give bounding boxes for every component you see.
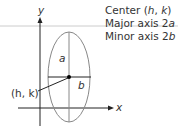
semi-minor-label: b <box>78 80 85 91</box>
semi-major-label: a <box>59 53 65 64</box>
legend-center-suffix: ) <box>167 4 171 16</box>
legend-center-prefix: Center ( <box>105 4 148 16</box>
center-point-label: (h, k) <box>11 88 39 99</box>
y-axis-arrow-icon <box>38 17 43 23</box>
legend-major-prefix: Major axis 2 <box>105 17 169 29</box>
center-point <box>67 75 71 79</box>
legend-major-var: a <box>169 17 175 29</box>
legend-minor-prefix: Minor axis 2 <box>105 30 169 42</box>
legend-center: Center (h, k) <box>105 5 171 16</box>
legend-minor-var: b <box>169 30 176 42</box>
center-leader-line <box>38 78 68 91</box>
legend-major-axis: Major axis 2a <box>105 18 175 29</box>
legend-minor-axis: Minor axis 2b <box>105 31 175 42</box>
x-axis-arrow-icon <box>108 106 114 111</box>
x-axis-label: x <box>116 102 122 113</box>
y-axis-label: y <box>38 5 44 16</box>
